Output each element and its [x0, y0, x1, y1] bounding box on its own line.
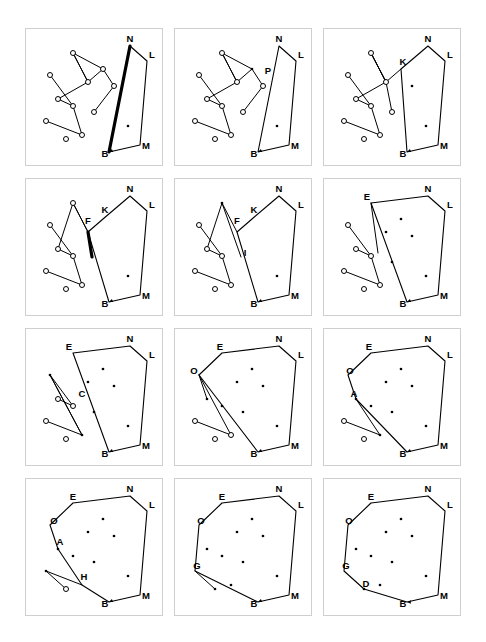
point-open-p3	[44, 119, 49, 124]
vertex-label-M: M	[142, 140, 150, 151]
point-filled-p6	[236, 531, 239, 534]
point-filled-p9	[102, 368, 105, 371]
chain-path-2	[222, 203, 241, 257]
arrow-head-icon	[258, 599, 262, 602]
arrow-head-icon	[258, 449, 262, 452]
panel-canvas-12: ENLOGDMB	[324, 479, 461, 616]
point-open-p2	[346, 223, 351, 228]
point-filled-p12	[276, 425, 279, 428]
hull-path	[401, 46, 445, 152]
vertex-label-K: K	[102, 204, 109, 215]
arrow-head-icon	[258, 299, 262, 302]
point-open-p4	[64, 137, 69, 142]
zigzag-path	[207, 53, 252, 99]
point-open-p8	[80, 133, 85, 138]
vertex-label-N: N	[276, 333, 283, 344]
point-filled-p9	[251, 368, 254, 371]
point-filled-p7	[72, 555, 75, 558]
vertex-label-M: M	[291, 590, 299, 601]
point-open-p4	[213, 287, 218, 292]
vertex-label-P: P	[265, 65, 272, 76]
point-filled-p7	[221, 405, 224, 408]
point-open-p6	[86, 80, 91, 85]
point-filled-p8	[379, 584, 382, 587]
point-filled-p9	[102, 518, 105, 521]
panel-canvas-1: NLMB	[26, 29, 163, 166]
vertex-label-M: M	[291, 290, 299, 301]
panel-step-11: ENLOGMB	[174, 478, 312, 616]
vertex-label-A: A	[57, 536, 64, 547]
point-open-p3	[342, 419, 347, 424]
point-filled-p5	[206, 548, 209, 551]
hull-path	[199, 346, 296, 452]
point-filled-p12	[425, 575, 428, 578]
panel-canvas-7: ENLCMB	[26, 329, 163, 466]
vertex-label-N: N	[425, 483, 432, 494]
vertex-label-L: L	[447, 49, 453, 60]
chain-path-0	[195, 106, 231, 135]
panel-step-12-final: ENLOGDMB	[323, 478, 461, 616]
vertex-label-B: B	[400, 298, 407, 309]
point-filled-p6	[385, 231, 388, 234]
vertex-label-B: B	[251, 148, 258, 159]
panel-canvas-4: NLKFMB	[26, 179, 163, 316]
point-open-p7	[220, 104, 225, 109]
point-filled-p12	[425, 125, 428, 128]
vertex-label-O: O	[190, 365, 197, 376]
vertex-label-E: E	[368, 491, 374, 502]
point-open-p7	[220, 254, 225, 259]
point-open-p3	[342, 119, 347, 124]
point-open-p8	[229, 433, 234, 438]
point-open-p3	[193, 269, 198, 274]
point-filled-p12	[127, 575, 130, 578]
panel-step-2: NLPMB	[174, 28, 312, 166]
point-open-p7	[71, 254, 76, 259]
vertex-label-L: L	[447, 349, 453, 360]
hull-path	[344, 496, 445, 602]
point-open-p1	[220, 51, 225, 56]
vertex-label-F: F	[85, 215, 91, 226]
vertex-label-N: N	[127, 483, 134, 494]
vertex-label-B: B	[102, 148, 109, 159]
point-open-p9	[101, 67, 106, 72]
vertex-label-M: M	[440, 290, 448, 301]
vertex-label-E: E	[219, 491, 225, 502]
vertex-label-M: M	[440, 140, 448, 151]
point-open-p10	[112, 84, 117, 89]
vertex-label-E: E	[70, 491, 76, 502]
panel-step-8: ENLOMB	[174, 328, 312, 466]
point-filled-p9	[400, 518, 403, 521]
point-open-p8	[80, 283, 85, 288]
vertex-label-N: N	[127, 33, 134, 44]
chain-path-0	[46, 106, 82, 135]
point-filled-p10	[411, 535, 414, 538]
point-open-p5	[205, 97, 210, 102]
point-filled-p11	[93, 561, 96, 564]
point-open-p8	[229, 283, 234, 288]
point-filled-p10	[411, 235, 414, 238]
point-open-p5	[354, 247, 359, 252]
point-open-p7	[369, 104, 374, 109]
panel-grid: NLMBNLPMBNLKMBNLKFMBNLKFIMBENLMBENLCMBEN…	[25, 28, 461, 618]
vertex-label-B: B	[400, 148, 407, 159]
point-open-p7	[71, 404, 76, 409]
vertex-label-L: L	[149, 499, 155, 510]
point-open-p4	[64, 437, 69, 442]
vertex-label-D: D	[363, 578, 370, 589]
point-open-p6	[235, 80, 240, 85]
point-filled-p9	[400, 218, 403, 221]
panel-step-7: ENLCMB	[25, 328, 163, 466]
point-open-p5	[56, 397, 61, 402]
arrow-head-icon	[109, 299, 113, 302]
panel-step-1: NLMB	[25, 28, 163, 166]
point-open-p3	[44, 269, 49, 274]
arrow-head-icon	[407, 600, 411, 603]
point-open-p3	[44, 419, 49, 424]
vertex-label-C: C	[79, 388, 86, 399]
point-filled-p12	[276, 275, 279, 278]
point-open-p5	[56, 247, 61, 252]
point-filled-p3	[45, 570, 48, 573]
point-filled-p6	[87, 531, 90, 534]
zigzag-path	[58, 53, 103, 99]
point-filled-p6	[87, 381, 90, 384]
